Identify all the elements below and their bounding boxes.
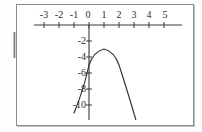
parabola-plot: -3 -2 -1 0 1 2 3 4 5 -2 -4 -6 -8 -10 — [16, 4, 194, 126]
y-tick-label--2: -2 — [70, 36, 86, 46]
y-tick-label--6: -6 — [70, 68, 86, 78]
graph-canvas — [16, 4, 194, 126]
y-tick-label--8: -8 — [70, 84, 86, 94]
x-tick-label-3: 3 — [132, 10, 137, 20]
x-tick-label--3: -3 — [40, 10, 48, 20]
x-tick-label-5: 5 — [163, 10, 168, 20]
y-tick-label--4: -4 — [70, 52, 86, 62]
x-tick-label-2: 2 — [117, 10, 122, 20]
x-tick-label-1: 1 — [102, 10, 107, 20]
x-tick-label-0: 0 — [86, 10, 91, 20]
y-tick-label--10: -10 — [64, 100, 86, 110]
x-tick-label--2: -2 — [55, 10, 63, 20]
scanned-page: -3 -2 -1 0 1 2 3 4 5 -2 -4 -6 -8 -10 — [0, 0, 202, 132]
x-tick-label-4: 4 — [147, 10, 152, 20]
x-tick-label--1: -1 — [70, 10, 78, 20]
